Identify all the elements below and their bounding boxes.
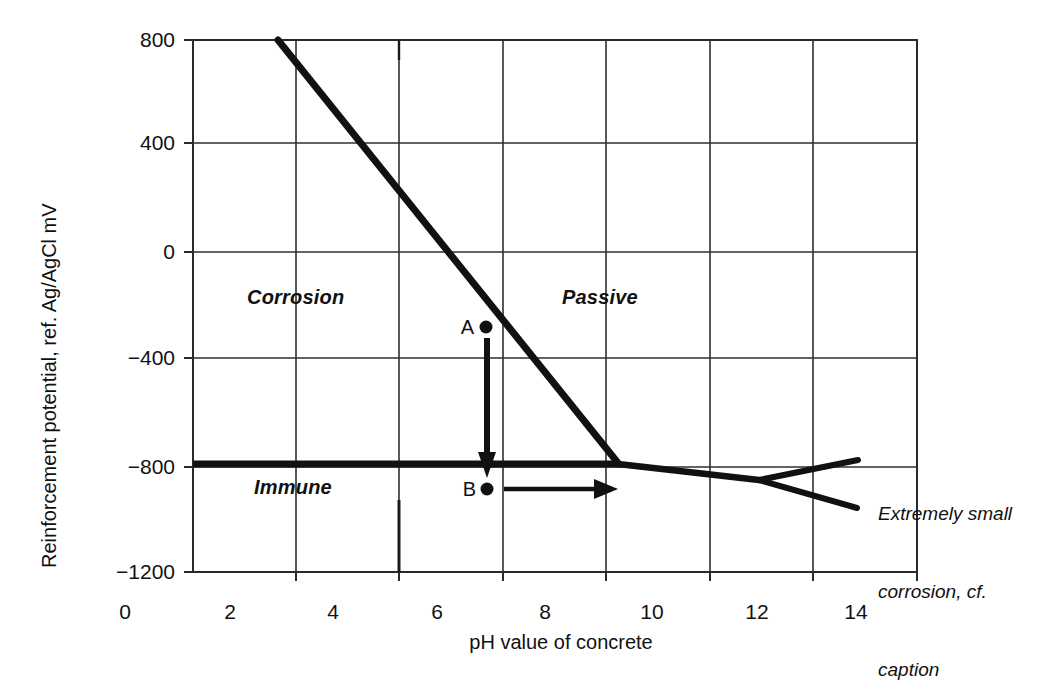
y-axis-ticks: [184, 40, 193, 572]
x-tick-label-8: 8: [539, 600, 551, 624]
x-tick-label-14: 14: [844, 600, 867, 624]
chart-figure: Reinforcement potential, ref. Ag/AgCl mV…: [0, 0, 1052, 684]
x-tick-label-10: 10: [640, 600, 663, 624]
region-label-immune: Immune: [254, 476, 332, 499]
x-axis-title: pH value of concrete: [469, 631, 652, 654]
y-tick-label-minus400: −400: [80, 346, 175, 370]
region-label-passive: Passive: [562, 286, 638, 309]
vertical-gridlines: [296, 40, 813, 572]
x-tick-label-2: 2: [224, 600, 236, 624]
annotation-line-1: Extremely small: [878, 501, 1012, 527]
y-tick-label-0: 0: [80, 240, 175, 264]
y-tick-label-800: 800: [80, 28, 175, 52]
y-tick-label-400: 400: [80, 131, 175, 155]
x-tick-label-4: 4: [327, 600, 339, 624]
arrow-b-to-right: [504, 479, 618, 499]
annotation-line-3: caption: [878, 657, 1012, 683]
region-label-corrosion: Corrosion: [247, 286, 344, 309]
point-a-label: A: [461, 316, 474, 339]
point-b-marker: [481, 483, 494, 496]
x-tick-label-12: 12: [745, 600, 768, 624]
point-a-marker: [480, 321, 493, 334]
x-axis-ticks: [296, 572, 917, 581]
annotation-line-2: corrosion, cf.: [878, 579, 1012, 605]
series-immunity-lower-branch: [759, 480, 857, 508]
x-tick-label-6: 6: [431, 600, 443, 624]
annotation-extremely-small-corrosion: Extremely small corrosion, cf. caption: [878, 449, 1012, 684]
y-tick-label-minus800: −800: [80, 455, 175, 479]
x-tick-label-0: 0: [119, 600, 131, 624]
y-axis-title: Reinforcement potential, ref. Ag/AgCl mV: [38, 203, 61, 568]
arrow-a-to-b: [478, 338, 496, 478]
series-immunity-upper-branch: [759, 460, 858, 480]
point-b-label: B: [463, 478, 476, 501]
y-tick-label-minus1200: −1200: [80, 560, 175, 584]
